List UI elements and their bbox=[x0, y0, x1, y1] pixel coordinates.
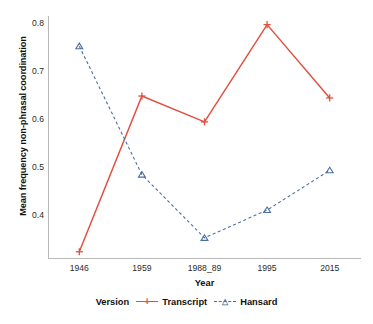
data-point-transcript-1946[interactable] bbox=[76, 248, 83, 255]
legend-item-hansard[interactable]: △ Hansard bbox=[214, 296, 277, 307]
data-point-hansard-1946[interactable] bbox=[76, 43, 83, 49]
x-axis-tick-label: 1995 bbox=[258, 263, 277, 273]
x-axis-tick-label: 1988_89 bbox=[188, 263, 221, 273]
chart-legend: Version + Transcript △ Hansard bbox=[0, 296, 373, 307]
legend-label-transcript: Transcript bbox=[162, 297, 207, 307]
x-axis-tick-label: 1946 bbox=[70, 263, 89, 273]
data-point-hansard-2015[interactable] bbox=[326, 167, 333, 173]
line-chart-figure: Mean frequency non-phrasal coordination … bbox=[0, 0, 373, 324]
legend-title: Version bbox=[96, 297, 130, 307]
x-axis-tick-label: 2015 bbox=[320, 263, 339, 273]
legend-swatch-hansard: △ bbox=[214, 296, 236, 307]
chart-series-layer bbox=[0, 0, 373, 324]
legend-label-hansard: Hansard bbox=[240, 297, 277, 307]
series-line-hansard bbox=[79, 46, 329, 238]
x-axis-tick-label: 1959 bbox=[132, 263, 151, 273]
data-point-transcript-1959[interactable] bbox=[138, 92, 145, 99]
legend-item-transcript[interactable]: + Transcript bbox=[136, 296, 207, 307]
data-point-transcript-1988_89[interactable] bbox=[201, 118, 208, 125]
data-point-hansard-1995[interactable] bbox=[264, 207, 271, 213]
series-line-transcript bbox=[79, 25, 329, 252]
legend-swatch-transcript: + bbox=[136, 296, 158, 307]
x-axis-title: Year bbox=[48, 278, 361, 288]
